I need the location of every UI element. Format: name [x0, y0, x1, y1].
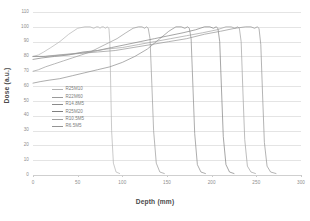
- y-tick-label: 70: [24, 69, 29, 74]
- y-tick-label: 110: [21, 10, 29, 15]
- y-tick-label: 10: [24, 158, 29, 163]
- legend-color-swatch: [52, 111, 63, 112]
- legend-item[interactable]: R22M60: [52, 93, 104, 100]
- y-tick-label: 40: [24, 113, 29, 118]
- x-tick-label: 50: [66, 181, 90, 186]
- legend-item[interactable]: R14.8M5: [52, 101, 104, 108]
- legend-color-swatch: [52, 97, 63, 98]
- legend-label: R22M60: [66, 95, 83, 100]
- legend-label: R25M20: [66, 110, 83, 115]
- legend-item[interactable]: R25M20: [52, 108, 104, 115]
- legend-color-swatch: [52, 119, 63, 120]
- y-tick-label: 80: [24, 54, 29, 59]
- x-tick-label: 0: [21, 181, 45, 186]
- legend-color-swatch: [52, 126, 63, 127]
- y-tick-label: 20: [24, 143, 29, 148]
- legend-label: R6.5M5: [66, 124, 82, 129]
- x-tick-label: 100: [110, 181, 134, 186]
- y-tick-label: 30: [24, 128, 29, 133]
- x-tick-label: 150: [155, 181, 179, 186]
- legend-label: R10.5M5: [66, 117, 85, 122]
- legend-color-swatch: [52, 89, 63, 90]
- y-tick-label: 90: [24, 39, 29, 44]
- y-tick-label: 60: [24, 84, 29, 89]
- x-tick-label: 250: [244, 181, 268, 186]
- x-tick-mark: [301, 175, 302, 177]
- y-axis-title: Dose (a.u.): [3, 56, 10, 116]
- legend-label: R25M10: [66, 87, 83, 92]
- y-tick-label: 100: [21, 25, 29, 30]
- x-axis-line: [33, 175, 301, 176]
- legend-item[interactable]: R6.5M5: [52, 123, 104, 130]
- y-tick-label: 50: [24, 99, 29, 104]
- legend-color-swatch: [52, 104, 63, 105]
- legend-item[interactable]: R25M10: [52, 86, 104, 93]
- legend-item[interactable]: R10.5M5: [52, 116, 104, 123]
- legend: R25M10R22M60R14.8M5R25M20R10.5M5R6.5M5: [52, 86, 104, 130]
- x-tick-label: 300: [289, 181, 310, 186]
- x-tick-label: 200: [200, 181, 224, 186]
- legend-label: R14.8M5: [66, 102, 85, 107]
- x-axis-title: Depth (mm): [0, 198, 310, 205]
- y-tick-label: 0: [26, 173, 29, 178]
- depth-dose-chart: Dose (a.u.) Depth (mm) 01020304050607080…: [0, 0, 310, 221]
